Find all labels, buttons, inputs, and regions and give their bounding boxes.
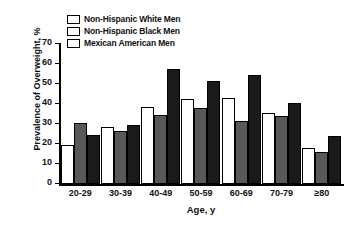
bar[interactable] <box>328 136 341 184</box>
x-axis-title: Age, y <box>60 204 342 215</box>
bar-group <box>302 44 342 184</box>
bar-group <box>100 44 140 184</box>
bar[interactable] <box>248 75 261 184</box>
legend-swatch-icon-gray <box>67 27 80 36</box>
bar[interactable] <box>74 123 87 184</box>
y-tick-label: 20 <box>42 137 52 148</box>
bar-group <box>221 44 261 184</box>
legend-swatch-icon-white <box>67 15 80 24</box>
bar[interactable] <box>315 152 328 184</box>
y-tick-label: 30 <box>42 117 52 128</box>
bar-group <box>141 44 181 184</box>
legend-item-white: Non-Hispanic White Men <box>67 14 180 25</box>
bar-group <box>181 44 221 184</box>
x-tick-label: 60-69 <box>221 188 261 199</box>
x-tick-label: 30-39 <box>100 188 140 199</box>
bar[interactable] <box>154 115 167 184</box>
x-axis-tick-labels: 20-2930-3940-4950-5960-6970-79≥80 <box>60 188 342 199</box>
x-tick-label: 70-79 <box>261 188 301 199</box>
bar[interactable] <box>61 145 74 184</box>
bar[interactable] <box>262 113 275 184</box>
bar[interactable] <box>275 116 288 184</box>
bar-group <box>261 44 301 184</box>
y-tick-label: 70 <box>42 37 52 48</box>
bar[interactable] <box>288 103 301 184</box>
y-tick-label: 50 <box>42 77 52 88</box>
bar[interactable] <box>207 81 220 184</box>
bar-group <box>60 44 100 184</box>
legend-label-white: Non-Hispanic White Men <box>84 15 180 24</box>
legend-label-gray: Non-Hispanic Black Men <box>84 27 180 36</box>
plot-area: 010203040506070 <box>60 44 342 184</box>
y-axis-title: Prevalence of Overweight, % <box>32 9 42 169</box>
y-tick-label: 10 <box>42 157 52 168</box>
y-tick-label: 40 <box>42 97 52 108</box>
y-tick-label: 60 <box>42 57 52 68</box>
bar[interactable] <box>167 69 180 184</box>
bar[interactable] <box>235 121 248 184</box>
legend-item-gray: Non-Hispanic Black Men <box>67 26 180 37</box>
bar[interactable] <box>222 98 235 184</box>
x-tick-label: 40-49 <box>141 188 181 199</box>
x-axis-line <box>59 184 344 186</box>
bar[interactable] <box>114 131 127 184</box>
bar-groups <box>60 44 342 184</box>
bar[interactable] <box>302 148 315 184</box>
x-tick-label: 50-59 <box>181 188 221 199</box>
bar[interactable] <box>101 127 114 184</box>
x-tick-label: ≥80 <box>302 188 342 199</box>
bar[interactable] <box>87 135 100 184</box>
bar[interactable] <box>141 107 154 184</box>
bar[interactable] <box>181 99 194 184</box>
bar[interactable] <box>194 108 207 184</box>
bar[interactable] <box>127 125 140 184</box>
x-tick-label: 20-29 <box>60 188 100 199</box>
chart-figure: Non-Hispanic White Men Non-Hispanic Blac… <box>0 0 349 227</box>
y-tick-label: 0 <box>47 177 52 188</box>
